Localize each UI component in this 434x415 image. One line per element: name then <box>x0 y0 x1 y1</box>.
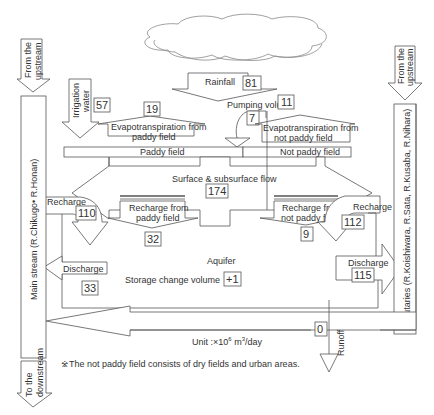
irrigation-label-1: Irrigation <box>71 83 81 118</box>
from-upstream-right-arrow: From the upstream <box>388 46 422 100</box>
footnote: ※The not paddy field consists of dry fie… <box>61 359 300 369</box>
recharge-paddy-value: 32 <box>147 233 159 245</box>
pumping-value: 7 <box>249 112 255 124</box>
to-downstream-2: downstream <box>35 348 45 397</box>
irrigation-value: 57 <box>96 99 108 111</box>
rainfall-label: Rainfall <box>205 77 235 87</box>
to-downstream-1: To the <box>24 372 34 397</box>
water-balance-diagram: Rainfall 81 Irrigation water 57 Evapotra… <box>0 0 434 415</box>
runoff-label: Runoff <box>336 329 346 356</box>
recharge-right-label: Recharge <box>353 202 392 212</box>
et-paddy-arrow: Evapotranspiration from paddy field 19 <box>98 102 207 142</box>
unit-label: Unit :×106 m3/day <box>192 336 262 347</box>
storage-change-label: Storage change volume <box>125 275 220 285</box>
et-not-paddy-label-2: not paddy field <box>274 133 333 143</box>
pumping-et-not-paddy-value: 11 <box>281 96 292 108</box>
recharge-paddy-arrow: Recharge from paddy field 32 <box>108 196 198 246</box>
storage-change-value: +1 <box>226 273 239 285</box>
et-not-paddy-label-1: Evapotranspiration from <box>263 123 359 133</box>
et-paddy-value: 19 <box>146 103 158 115</box>
et-paddy-label-2: paddy field <box>132 132 176 142</box>
discharge-left-arrow: Discharge 33 <box>44 256 107 295</box>
et-paddy-label-1: Evapotranspiration from <box>111 122 207 132</box>
discharge-right-value: 115 <box>354 269 372 281</box>
from-upstream-left-2: upstream <box>33 42 43 80</box>
recharge-left-value: 110 <box>78 207 96 219</box>
from-upstream-right-2: upstream <box>405 48 415 86</box>
rainfall-value: 81 <box>245 77 257 89</box>
runoff-arrow: 0 Runoff <box>315 300 346 372</box>
from-upstream-left-1: From the <box>23 42 33 78</box>
recharge-left-label: Recharge <box>47 197 86 207</box>
rainfall-arrow: Rainfall 81 <box>172 73 277 101</box>
surface-flow-value: 174 <box>208 185 226 197</box>
recharge-paddy-label-1: Recharge from <box>129 203 189 213</box>
aquifer-label: Aquifer <box>207 256 236 266</box>
main-stream-label: Main stream (R.Chikugo• R.Honan) <box>29 159 39 300</box>
not-paddy-field-label: Not paddy field <box>280 147 340 157</box>
recharge-not-paddy-value: 9 <box>303 228 309 240</box>
irrigation-water-arrow: Irrigation water 57 <box>62 79 110 138</box>
tributaries-label: Tributaries (R.Koishiwara, R.Sata, R.Kus… <box>402 109 412 330</box>
cloud-icon <box>145 14 327 60</box>
discharge-left-label: Discharge <box>63 264 104 274</box>
discharge-right-arrow: Discharge 115 <box>336 244 400 294</box>
tributaries: Tributaries (R.Koishiwara, R.Sata, R.Kus… <box>394 104 416 334</box>
runoff-value: 0 <box>317 323 323 335</box>
discharge-right-label: Discharge <box>348 258 389 268</box>
et-not-paddy-arrow: Evapotranspiration from not paddy field <box>255 115 359 143</box>
paddy-field-label: Paddy field <box>140 147 185 157</box>
recharge-right-value: 112 <box>344 216 362 228</box>
from-upstream-left-arrow: From the upstream <box>17 39 50 92</box>
surface-flow-label: Surface & subsurface flow <box>172 174 277 184</box>
discharge-left-value: 33 <box>84 282 96 294</box>
field-bar: Paddy field Not paddy field <box>64 147 351 157</box>
main-stream: Main stream (R.Chikugo• R.Honan) <box>21 96 46 358</box>
recharge-paddy-label-2: paddy field <box>136 213 180 223</box>
irrigation-label-2: water <box>81 90 91 113</box>
